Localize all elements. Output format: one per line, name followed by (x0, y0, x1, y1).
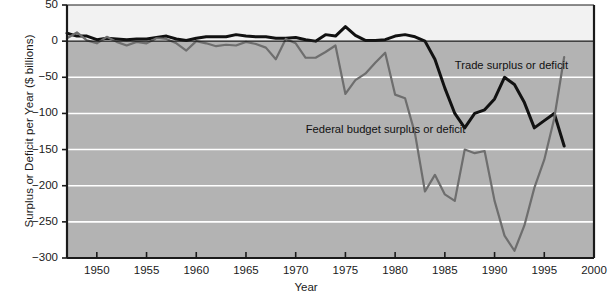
y-axis-tick-label: −50 (12, 71, 58, 83)
y-axis-tick-label: −300 (12, 252, 58, 264)
x-axis-tick-label: 1975 (317, 265, 373, 277)
y-axis-tick-label: −250 (12, 216, 58, 228)
x-axis-tick-label: 1955 (119, 265, 175, 277)
x-axis-tick-label: 1960 (168, 265, 224, 277)
series-label-trade: Trade surplus or deficit (455, 59, 568, 71)
x-axis-tick-label: 1995 (516, 265, 572, 277)
x-axis-tick-label: 1980 (367, 265, 423, 277)
x-axis-tick-label: 1985 (417, 265, 473, 277)
chart-figure: Surplus or Deficit per Year ($ billions)… (0, 0, 612, 300)
chart-plot-area (0, 0, 612, 300)
x-axis-tick-label: 1965 (218, 265, 274, 277)
y-axis-tick-label: −150 (12, 144, 58, 156)
x-axis-tick-label: 1970 (268, 265, 324, 277)
y-axis-tick-label: 0 (12, 35, 58, 47)
x-axis-tick-label: 1990 (467, 265, 523, 277)
x-axis-tick-label: 2000 (566, 265, 612, 277)
y-axis-tick-label: −200 (12, 180, 58, 192)
y-axis-tick-label: −100 (12, 107, 58, 119)
y-axis-tick-label: 50 (12, 0, 58, 11)
series-label-budget: Federal budget surplus or deficit (306, 123, 466, 135)
x-axis-title: Year (0, 281, 612, 293)
x-axis-tick-label: 1950 (69, 265, 125, 277)
